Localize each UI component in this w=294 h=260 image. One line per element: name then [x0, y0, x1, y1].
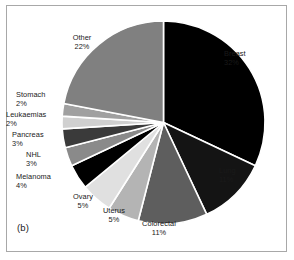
pie-label-breast-name: Breast: [224, 49, 246, 58]
figure-panel: Breast 32% Lung 11% Colorectal 11% Uteru…: [0, 0, 294, 260]
pie-label-nhl-value: 3%: [26, 159, 74, 168]
pie-label-uterus-name: Uterus: [103, 206, 125, 215]
pie-label-pancreas-name: Pancreas: [12, 130, 44, 139]
pie-chart: Breast 32% Lung 11% Colorectal 11% Uteru…: [0, 0, 294, 260]
pie-label-other-name: Other: [73, 33, 92, 42]
pie-label-colorectal: Colorectal 11%: [133, 219, 185, 237]
pie-label-leukaemias-value: 2%: [6, 119, 74, 128]
pie-label-colorectal-value: 11%: [133, 228, 185, 237]
pie-label-pancreas-value: 3%: [12, 139, 74, 148]
pie-label-nhl: NHL 3%: [26, 150, 74, 168]
pie-label-pancreas: Pancreas 3%: [12, 130, 74, 148]
pie-label-lung: Lung 11%: [219, 166, 236, 184]
pie-label-stomach-name: Stomach: [16, 90, 46, 99]
pie-label-uterus-value: 5%: [96, 215, 132, 224]
pie-label-lung-value: 11%: [219, 175, 236, 184]
pie-label-ovary-value: 5%: [66, 201, 100, 210]
pie-label-lung-name: Lung: [219, 166, 236, 175]
pie-label-ovary-name: Ovary: [73, 192, 93, 201]
pie-label-other-value: 22%: [63, 42, 101, 51]
pie-label-breast-value: 32%: [224, 58, 246, 67]
pie-label-leukaemias: Leukaemias 2%: [6, 110, 74, 128]
pie-label-melanoma: Melanoma 4%: [16, 172, 74, 190]
pie-label-melanoma-name: Melanoma: [16, 172, 51, 181]
pie-label-stomach-value: 2%: [16, 99, 74, 108]
pie-label-colorectal-name: Colorectal: [142, 219, 176, 228]
pie-label-breast: Breast 32%: [224, 49, 246, 67]
pie-label-ovary: Ovary 5%: [66, 192, 100, 210]
pie-label-nhl-name: NHL: [26, 150, 41, 159]
pie-label-stomach: Stomach 2%: [16, 90, 74, 108]
panel-caption: (b): [17, 222, 29, 233]
pie-label-other: Other 22%: [63, 33, 101, 51]
pie-label-uterus: Uterus 5%: [96, 206, 132, 224]
pie-label-melanoma-value: 4%: [16, 181, 74, 190]
pie-label-leukaemias-name: Leukaemias: [6, 110, 46, 119]
